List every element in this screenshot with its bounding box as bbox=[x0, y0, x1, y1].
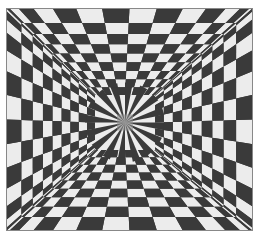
artwork-frame bbox=[6, 8, 253, 231]
